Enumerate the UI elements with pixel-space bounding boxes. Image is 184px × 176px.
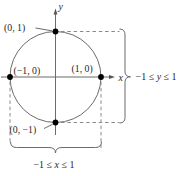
y-axis-label: y	[58, 1, 64, 12]
y-range-label: −1 ≤ y ≤ 1	[136, 71, 177, 82]
point-dot-bottom	[53, 120, 59, 126]
pointer-line-top-label	[36, 28, 53, 31]
x-range-label: −1 ≤ x ≤ 1	[33, 159, 74, 170]
unit-circle-diagram: y x (0, 1) (−1, 0) (1, 0) (0, −1) −1 ≤ y…	[0, 0, 184, 176]
x-axis-label: x	[118, 72, 124, 83]
point-label-neg1-0: (−1, 0)	[14, 65, 41, 77]
x-range-brace	[11, 142, 102, 154]
point-label-0-neg1: (0, −1)	[10, 124, 37, 136]
point-dot-top	[53, 29, 59, 35]
y-axis-arrow-icon	[54, 9, 58, 15]
point-label-1-0: (1, 0)	[72, 63, 93, 75]
point-label-0-1: (0, 1)	[4, 22, 25, 34]
point-dot-left	[7, 74, 13, 80]
pointer-line-bottom-label	[44, 124, 53, 128]
point-dot-right	[98, 74, 104, 80]
diagram-canvas: y x (0, 1) (−1, 0) (1, 0) (0, −1) −1 ≤ y…	[0, 0, 184, 176]
x-axis-arrow-icon	[109, 75, 115, 79]
